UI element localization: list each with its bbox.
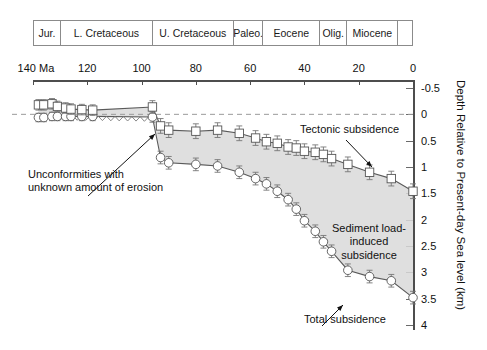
x-tick-80 bbox=[196, 80, 197, 85]
total-subsidence-marker bbox=[67, 112, 76, 121]
total-subsidence-marker bbox=[251, 174, 260, 183]
tectonic-subsidence-marker bbox=[148, 103, 156, 111]
tectonic-subsidence-marker bbox=[165, 126, 173, 134]
timescale-cell-paleo: Paleo. bbox=[234, 21, 264, 45]
annotation-sediment-load-subsidence: Sediment load- induced subsidence bbox=[313, 222, 425, 262]
total-subsidence-marker bbox=[292, 205, 301, 214]
total-subsidence-curve bbox=[38, 116, 413, 297]
timescale-cell-jur: Jur. bbox=[34, 21, 61, 45]
tectonic-subsidence-marker bbox=[67, 105, 75, 113]
leader-total-arrowhead bbox=[337, 305, 343, 311]
x-tick-label-0: 0 bbox=[410, 62, 416, 74]
y-tick-label-1: 1 bbox=[421, 161, 427, 173]
tectonic-subsidence-marker bbox=[319, 150, 327, 158]
total-subsidence-marker bbox=[78, 112, 87, 121]
x-tick-120 bbox=[87, 80, 88, 85]
y-tick-0 bbox=[406, 114, 413, 115]
annotation-tectonic-subsidence: Tectonic subsidence bbox=[300, 123, 399, 136]
tectonic-subsidence-marker bbox=[78, 105, 86, 113]
tectonic-subsidence-marker bbox=[327, 154, 335, 162]
chronostratigraphy-bar: Jur.L. CretaceousU. CretaceousPaleo.Eoce… bbox=[33, 20, 413, 46]
unconformity-hachure bbox=[52, 116, 149, 122]
x-tick-20 bbox=[359, 80, 360, 85]
x-tick-label-100: 100 bbox=[132, 62, 150, 74]
y-tick-3 bbox=[406, 272, 413, 273]
x-tick-label-40: 40 bbox=[298, 62, 310, 74]
timescale-cell-u-cretaceous: U. Cretaceous bbox=[153, 21, 234, 45]
total-subsidence-marker bbox=[235, 168, 244, 177]
x-tick-140 bbox=[33, 80, 34, 85]
x-tick-label-60: 60 bbox=[244, 62, 256, 74]
total-subsidence-marker bbox=[88, 112, 97, 121]
tectonic-subsidence-marker bbox=[251, 134, 259, 142]
y-tick-label-0-5: 0.5 bbox=[421, 135, 436, 147]
total-subsidence-marker bbox=[365, 272, 374, 281]
y-axis-line bbox=[413, 80, 415, 330]
leader-tectonic bbox=[346, 140, 372, 167]
tectonic-subsidence-marker bbox=[61, 104, 69, 112]
total-subsidence-marker bbox=[40, 113, 49, 122]
total-subsidence-marker bbox=[262, 180, 271, 189]
y-tick-label-3-5: 3.5 bbox=[421, 293, 436, 305]
x-tick-100 bbox=[142, 80, 143, 85]
total-subsidence-marker bbox=[387, 276, 396, 285]
tectonic-subsidence-marker bbox=[48, 100, 56, 108]
y-tick-label--0-5: -0.5 bbox=[421, 82, 440, 94]
timescale-cell-olig: Olig. bbox=[320, 21, 347, 45]
tectonic-subsidence-marker bbox=[311, 148, 319, 156]
timescale-cell-miocene: Miocene bbox=[347, 21, 398, 45]
y-tick-1-5 bbox=[406, 193, 413, 194]
tectonic-subsidence-marker bbox=[344, 160, 352, 168]
annotation-total-subsidence: Total subsidence bbox=[304, 313, 386, 326]
leader-tectonic-arrowhead bbox=[366, 161, 372, 167]
total-subsidence bbox=[34, 112, 417, 304]
total-subsidence-marker bbox=[300, 216, 309, 225]
y-tick-label-3: 3 bbox=[421, 266, 427, 278]
x-tick-label-20: 20 bbox=[353, 62, 365, 74]
total-subsidence-marker bbox=[344, 266, 353, 275]
tectonic-subsidence-marker bbox=[34, 101, 42, 109]
total-subsidence-marker bbox=[192, 160, 201, 169]
timescale-cell-eocene: Eocene bbox=[263, 21, 320, 45]
total-subsidence-marker bbox=[148, 113, 157, 122]
x-tick-40 bbox=[304, 80, 305, 85]
y-axis-title: Depth Relative to Present-day Sea level … bbox=[449, 80, 467, 330]
tectonic-subsidence-marker bbox=[273, 139, 281, 147]
tectonic-subsidence-marker bbox=[156, 122, 164, 130]
tectonic-subsidence-marker bbox=[192, 127, 200, 135]
y-tick-1 bbox=[406, 167, 413, 168]
x-axis-line bbox=[33, 80, 413, 82]
tectonic-subsidence-marker bbox=[284, 143, 292, 151]
y-tick-0-5 bbox=[406, 141, 413, 142]
tectonic-subsidence-marker bbox=[235, 129, 243, 137]
x-tick-label-120: 120 bbox=[78, 62, 96, 74]
total-subsidence-marker bbox=[156, 153, 165, 162]
x-tick-60 bbox=[250, 80, 251, 85]
x-tick-label-140: 140 Ma bbox=[18, 62, 55, 74]
tectonic-subsidence-marker bbox=[262, 138, 270, 146]
y-tick-2 bbox=[406, 220, 413, 221]
y-tick-label-1-5: 1.5 bbox=[421, 187, 436, 199]
tectonic-subsidence-marker bbox=[365, 168, 373, 176]
y-tick-4 bbox=[406, 325, 413, 326]
leader-unconformities-arrowhead bbox=[149, 134, 155, 140]
tectonic-subsidence-marker bbox=[89, 106, 97, 114]
total-subsidence-marker bbox=[61, 112, 70, 121]
total-subsidence-marker bbox=[213, 162, 222, 171]
tectonic-subsidence-marker bbox=[292, 144, 300, 152]
y-tick-label-0: 0 bbox=[421, 108, 427, 120]
timescale-cell-l-cretaceous: L. Cretaceous bbox=[61, 21, 153, 45]
tectonic-subsidence-marker bbox=[387, 174, 395, 182]
tectonic-subsidence-marker bbox=[40, 101, 48, 109]
total-subsidence-marker bbox=[34, 113, 43, 122]
annotation-unconformities: Unconformities with unknown amount of er… bbox=[28, 168, 163, 195]
total-subsidence-marker bbox=[53, 112, 62, 121]
y-tick-label-4: 4 bbox=[421, 319, 427, 331]
tectonic-subsidence-marker bbox=[53, 102, 61, 110]
y-tick-3-5 bbox=[406, 299, 413, 300]
timescale-cell-blank bbox=[398, 21, 411, 45]
tectonic-subsidence-marker bbox=[300, 147, 308, 155]
total-subsidence-marker bbox=[284, 195, 293, 204]
subsidence-chart-figure: Jur.L. CretaceousU. CretaceousPaleo.Eoce… bbox=[0, 0, 487, 350]
total-subsidence-marker bbox=[273, 187, 282, 196]
